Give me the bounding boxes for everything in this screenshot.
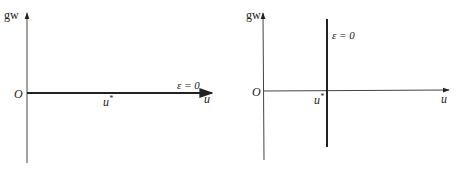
left-u-star-label: u* (103, 94, 113, 109)
right-x-axis (263, 90, 449, 91)
left-origin-label: O (14, 87, 23, 101)
right-u-star-label: u* (314, 92, 324, 107)
left-x-axis-label: u (204, 92, 210, 106)
diagram-canvas: gw O ε = 0 u u* gw O ε = 0 u u* (0, 0, 457, 169)
right-x-axis-label: u (441, 92, 447, 106)
right-y-axis (263, 13, 264, 160)
right-curve-label: ε = 0 (332, 29, 355, 41)
left-curve-label: ε = 0 (177, 79, 200, 91)
right-origin-label: O (252, 85, 261, 99)
right-figure: gw O ε = 0 u u* (246, 8, 449, 160)
left-figure: gw O ε = 0 u u* (4, 8, 212, 163)
left-y-axis-label: gw (4, 8, 19, 22)
right-y-axis-label: gw (246, 8, 261, 22)
